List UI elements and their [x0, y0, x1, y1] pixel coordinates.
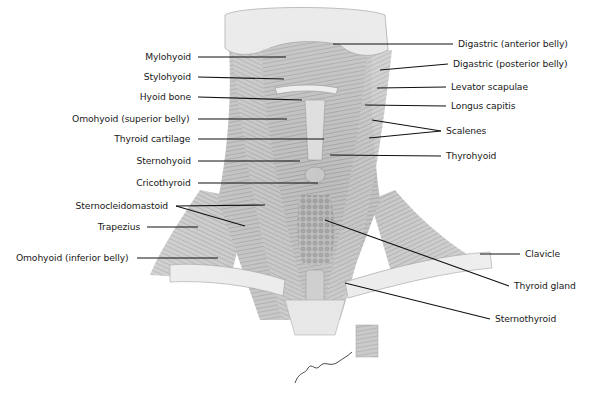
label-stylohyoid: Stylohyoid [144, 71, 191, 82]
label-thyroid-gland: Thyroid gland [514, 280, 576, 291]
label-sternothyroid: Sternothyroid [495, 313, 556, 324]
label-digastric-posterior: Digastric (posterior belly) [453, 58, 567, 69]
label-clavicle: Clavicle [525, 248, 560, 259]
label-thyrohyoid: Thyrohyoid [446, 150, 496, 161]
label-omohyoid-superior: Omohyoid (superior belly) [72, 113, 189, 124]
label-trapezius: Trapezius [98, 221, 140, 232]
label-thyroid-cartilage: Thyroid cartilage [114, 133, 190, 144]
label-omohyoid-inferior: Omohyoid (inferior belly) [16, 252, 129, 263]
label-mylohyoid: Mylohyoid [145, 51, 191, 62]
label-sternocleidomastoid: Sternocleidomastoid [76, 200, 168, 211]
label-sternohyoid: Sternohyoid [137, 155, 191, 166]
label-levator-scapulae: Levator scapulae [451, 81, 528, 92]
label-scalenes: Scalenes [446, 125, 486, 136]
label-longus-capitis: Longus capitis [451, 100, 515, 111]
label-cricothyroid: Cricothyroid [136, 177, 191, 188]
label-hyoid-bone: Hyoid bone [140, 91, 191, 102]
label-digastric-anterior: Digastric (anterior belly) [458, 38, 568, 49]
neck-anatomy-figure: MylohyoidStylohyoidHyoid boneOmohyoid (s… [0, 0, 589, 404]
